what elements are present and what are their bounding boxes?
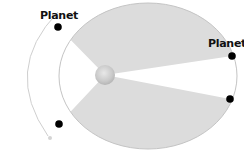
swept-area-lower <box>40 75 244 153</box>
planet-dot-right-upper <box>228 52 236 60</box>
orbit-diagram: Planet Planet <box>0 0 244 153</box>
planet-label-top-left: Planet <box>40 9 78 22</box>
planet-dot-top-left <box>54 23 62 31</box>
swept-sectors <box>40 0 244 153</box>
planet-dot-right-lower <box>226 95 234 103</box>
planet-dot-bottom-left <box>55 120 63 128</box>
motion-arc-arrow <box>27 12 58 136</box>
planet-label-right: Planet <box>208 37 244 50</box>
arrow-head-icon <box>48 136 52 140</box>
sun <box>95 65 115 85</box>
